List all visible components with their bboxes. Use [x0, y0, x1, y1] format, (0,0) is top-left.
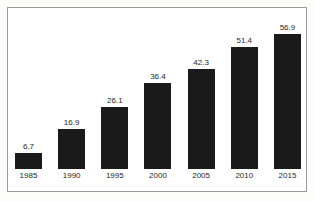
bar-value-label: 42.3	[193, 58, 209, 67]
category-axis-labels: 1985 1990 1995 2000 2005 2010 2015	[15, 171, 301, 181]
bar-rect	[15, 153, 42, 169]
bar-column: 36.4	[144, 8, 171, 169]
bar-rect	[58, 129, 85, 169]
bar-column: 16.9	[58, 8, 85, 169]
category-label: 1985	[15, 171, 42, 181]
bar-value-label: 56.9	[280, 23, 296, 32]
category-label: 2010	[231, 171, 258, 181]
bar-value-label: 26.1	[107, 96, 123, 105]
bar-value-label: 51.4	[236, 36, 252, 45]
bar-column: 6.7	[15, 8, 42, 169]
category-label: 1995	[101, 171, 128, 181]
bar-value-label: 16.9	[64, 118, 80, 127]
bars-container: 6.7 16.9 26.1 36.4 42.3	[15, 8, 301, 169]
bar-rect	[231, 47, 258, 169]
category-label: 1990	[58, 171, 85, 181]
bar-rect	[144, 83, 171, 169]
category-label: 2000	[144, 171, 171, 181]
category-label: 2015	[274, 171, 301, 181]
bar-column: 42.3	[188, 8, 215, 169]
bar-value-label: 6.7	[23, 142, 34, 151]
chart-border: 6.7 16.9 26.1 36.4 42.3	[7, 7, 307, 192]
bar-chart-figure: 6.7 16.9 26.1 36.4 42.3	[0, 0, 314, 201]
bar-rect	[188, 69, 215, 169]
bar-rect	[274, 34, 301, 169]
bar-rect	[101, 107, 128, 169]
plot-area: 6.7 16.9 26.1 36.4 42.3	[8, 8, 306, 191]
bar-column: 26.1	[101, 8, 128, 169]
bar-value-label: 36.4	[150, 72, 166, 81]
category-label: 2005	[188, 171, 215, 181]
bar-column: 56.9	[274, 8, 301, 169]
bar-column: 51.4	[231, 8, 258, 169]
